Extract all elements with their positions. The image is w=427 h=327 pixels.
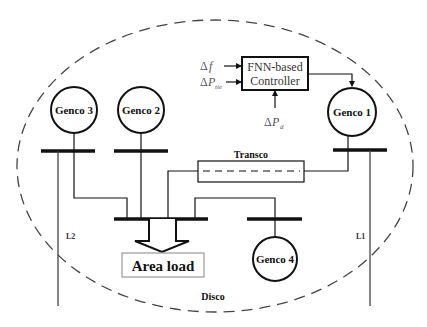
tie-line-l1-label: L1 [356, 232, 365, 241]
input-sub-tie: tie [215, 83, 222, 91]
genco-4-feeder [195, 198, 275, 219]
input-var-f: f [209, 59, 214, 73]
delta-symbol: Δ [200, 75, 208, 89]
transco-right-feeder [304, 150, 348, 171]
transco-label: Transco [234, 149, 268, 160]
genco-3-feeder [74, 151, 127, 219]
input-delta-ptie: Δ P tie [200, 75, 241, 91]
controller-output-line [308, 74, 352, 86]
controller-label-line1: FNN-based [247, 60, 302, 74]
disturbance-var-p: P [271, 115, 280, 129]
tie-line-l2-label: L2 [66, 232, 75, 241]
genco-4: Genco 4 [253, 219, 297, 281]
genco-2-label: Genco 2 [122, 104, 161, 116]
disco-label: Disco [201, 291, 224, 302]
load-arrow-icon [135, 219, 189, 252]
input-delta-f: Δ f [200, 59, 241, 73]
input-delta-pd: Δ P d [264, 91, 284, 131]
fnn-controller: FNN-based Controller [242, 57, 308, 90]
genco-1: Genco 1 [328, 88, 376, 150]
disturbance-sub-d: d [280, 123, 284, 131]
control-area-diagram: FNN-based Controller Δ f Δ P tie Δ P d G… [0, 0, 427, 327]
transco-left-feeder [168, 171, 198, 219]
genco-3-label: Genco 3 [55, 104, 94, 116]
genco-2: Genco 2 [118, 87, 164, 151]
genco-1-label: Genco 1 [333, 106, 371, 118]
area-load-label: Area load [132, 258, 195, 274]
genco-3: Genco 3 [51, 87, 97, 151]
delta-symbol: Δ [200, 59, 208, 73]
genco-4-label: Genco 4 [256, 253, 295, 265]
delta-symbol: Δ [264, 115, 272, 129]
controller-label-line2: Controller [250, 74, 299, 88]
